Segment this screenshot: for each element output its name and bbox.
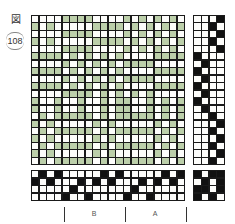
threading-cell: [116, 179, 122, 185]
drawdown-cell: [93, 31, 99, 37]
drawdown-cell: [101, 158, 107, 164]
drawdown-cell: [55, 76, 61, 82]
drawdown-cell: [147, 113, 153, 119]
drawdown-cell: [116, 106, 122, 112]
drawdown-cell: [63, 158, 69, 164]
drawdown-cell: [101, 113, 107, 119]
treadling-cell: [194, 98, 201, 104]
drawdown-cell: [162, 143, 168, 149]
drawdown-cell: [170, 31, 176, 37]
drawdown-cell: [40, 16, 46, 22]
drawdown-cell: [170, 61, 176, 67]
drawdown-cell: [78, 46, 84, 52]
drawdown-cell: [55, 31, 61, 37]
drawdown-cell: [86, 121, 92, 127]
treadling-cell: [194, 121, 201, 127]
drawdown-cell: [139, 46, 145, 52]
drawdown-cell: [40, 143, 46, 149]
treadling-cell: [210, 91, 217, 97]
treadling-cell: [217, 31, 224, 37]
drawdown-cell: [132, 113, 138, 119]
drawdown-cell: [47, 113, 53, 119]
drawdown-cell: [78, 98, 84, 104]
drawdown-cell: [132, 76, 138, 82]
drawdown-cell: [101, 121, 107, 127]
drawdown-cell: [78, 76, 84, 82]
drawdown-cell: [70, 23, 76, 29]
drawdown-cell: [47, 150, 53, 156]
drawdown-cell: [109, 113, 115, 119]
threading-cell: [40, 179, 46, 185]
drawdown-cell: [139, 98, 145, 104]
drawdown-cell: [40, 61, 46, 67]
drawdown-cell: [32, 135, 38, 141]
drawdown-cell: [70, 53, 76, 59]
tieup-cell: [210, 171, 217, 177]
drawdown-cell: [147, 150, 153, 156]
drawdown-cell: [178, 83, 184, 89]
treadling-cell: [217, 38, 224, 44]
treadling-cell: [194, 150, 201, 156]
drawdown-cell: [55, 53, 61, 59]
threading-cell: [40, 194, 46, 200]
tieup-cell: [210, 186, 217, 192]
drawdown-cell: [70, 113, 76, 119]
threading-cell: [178, 194, 184, 200]
drawdown-cell: [63, 38, 69, 44]
treadling-cell: [210, 76, 217, 82]
drawdown-cell: [47, 38, 53, 44]
drawdown-cell: [116, 61, 122, 67]
threading-cell: [40, 171, 46, 177]
drawdown-cell: [78, 16, 84, 22]
treadling-cell: [202, 135, 209, 141]
drawdown-cell: [162, 121, 168, 127]
threading-cell: [47, 194, 53, 200]
drawdown-cell: [162, 31, 168, 37]
threading-cell: [47, 171, 53, 177]
drawdown-cell: [124, 46, 130, 52]
threading-cell: [101, 171, 107, 177]
tieup-grid: [193, 170, 225, 201]
drawdown-cell: [101, 68, 107, 74]
treadling-cell: [194, 106, 201, 112]
drawdown-cell: [155, 31, 161, 37]
drawdown-cell: [63, 61, 69, 67]
drawdown-cell: [70, 106, 76, 112]
threading-cell: [139, 179, 145, 185]
drawdown-cell: [63, 106, 69, 112]
tieup-cell: [217, 179, 224, 185]
drawdown-cell: [116, 121, 122, 127]
drawdown-cell: [178, 31, 184, 37]
drawdown-cell: [124, 31, 130, 37]
drawdown-cell: [93, 16, 99, 22]
drawdown-cell: [40, 158, 46, 164]
drawdown-cell: [70, 158, 76, 164]
drawdown-cell: [101, 16, 107, 22]
drawdown-cell: [86, 46, 92, 52]
drawdown-cell: [32, 53, 38, 59]
treadling-cell: [194, 46, 201, 52]
treadling-grid: [193, 15, 225, 165]
drawdown-cell: [155, 143, 161, 149]
drawdown-cell: [32, 61, 38, 67]
drawdown-cell: [139, 143, 145, 149]
treadling-cell: [217, 98, 224, 104]
drawdown-cell: [55, 121, 61, 127]
drawdown-cell: [55, 143, 61, 149]
threading-cell: [132, 186, 138, 192]
treadling-cell: [210, 98, 217, 104]
drawdown-cell: [32, 128, 38, 134]
drawdown-cell: [132, 61, 138, 67]
drawdown-cell: [116, 68, 122, 74]
treadling-cell: [202, 23, 209, 29]
drawdown-cell: [124, 121, 130, 127]
threading-cell: [70, 186, 76, 192]
drawdown-cell: [86, 83, 92, 89]
drawdown-cell: [93, 121, 99, 127]
drawdown-cell: [162, 23, 168, 29]
threading-cell: [147, 171, 153, 177]
drawdown-cell: [139, 113, 145, 119]
treadling-cell: [210, 113, 217, 119]
drawdown-cell: [40, 98, 46, 104]
threading-cell: [101, 186, 107, 192]
